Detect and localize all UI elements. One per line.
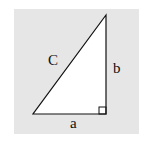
horizontal-leg-label: a xyxy=(70,116,77,131)
hypotenuse-label: C xyxy=(48,53,58,68)
right-triangle xyxy=(33,15,106,114)
vertical-leg-label: b xyxy=(113,61,121,76)
